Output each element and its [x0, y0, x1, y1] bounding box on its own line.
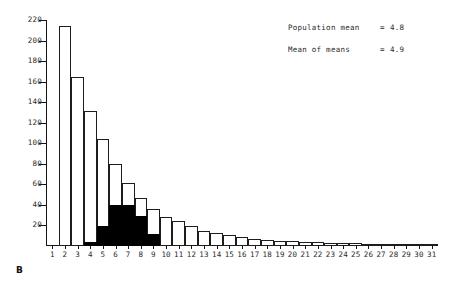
histogram-bar	[147, 234, 160, 246]
x-axis-tick-label: 14	[212, 251, 221, 259]
histogram-figure: 22020018016014012010080604020 1234567891…	[0, 0, 450, 288]
histogram-bar	[84, 242, 97, 246]
x-axis-tick-label: 29	[402, 251, 411, 259]
x-axis-tick-label: 26	[364, 251, 373, 259]
x-axis-tick-label: 10	[161, 251, 170, 259]
y-axis-tick-label: 200	[28, 37, 42, 45]
x-axis-tick-label: 3	[75, 251, 80, 259]
y-axis-tick-label: 40	[33, 201, 42, 209]
annotation-equals: =	[380, 46, 390, 54]
x-axis-tick-label: 16	[237, 251, 246, 259]
annotation-equals: =	[380, 24, 390, 32]
x-axis-tick-label: 8	[138, 251, 143, 259]
panel-letter: B	[16, 266, 23, 275]
x-axis-tick-label: 2	[63, 251, 68, 259]
x-axis-tick-label: 25	[351, 251, 360, 259]
x-axis-tick-label: 15	[225, 251, 234, 259]
x-axis-tick-label: 28	[389, 251, 398, 259]
x-axis-tick-label: 23	[326, 251, 335, 259]
x-axis-tick-label: 27	[376, 251, 385, 259]
x-axis-tick-label: 12	[187, 251, 196, 259]
annotation-row: Mean of means=4.9	[288, 46, 404, 54]
chart-annotations: Population mean=4.8Mean of means=4.9	[288, 24, 404, 67]
x-axis-tick-label: 17	[250, 251, 259, 259]
y-axis-tick-label: 220	[28, 16, 42, 24]
histogram-bar	[122, 205, 135, 246]
x-axis-tick-label: 24	[338, 251, 347, 259]
y-axis-tick-label: 160	[28, 78, 42, 86]
histogram-bar	[109, 205, 122, 246]
histogram-bar	[135, 216, 148, 246]
x-axis-tick-label: 30	[414, 251, 423, 259]
x-axis-tick-label: 22	[313, 251, 322, 259]
x-axis-tick-label: 31	[427, 251, 436, 259]
x-axis-tick-label: 4	[88, 251, 93, 259]
x-axis-tick-label: 13	[199, 251, 208, 259]
annotation-row: Population mean=4.8	[288, 24, 404, 32]
y-axis-tick-label: 140	[28, 98, 42, 106]
x-axis-tick-label: 1	[50, 251, 55, 259]
y-axis-tick-label: 80	[33, 160, 42, 168]
x-axis-tick-label: 7	[126, 251, 131, 259]
x-axis-tick-label: 18	[263, 251, 272, 259]
y-axis-tick-label: 180	[28, 57, 42, 65]
annotation-value: 4.8	[390, 24, 404, 32]
y-axis-tick-label: 120	[28, 119, 42, 127]
x-axis-tick-label: 20	[288, 251, 297, 259]
y-axis-tick-label: 20	[33, 222, 42, 230]
x-axis-tick-label: 19	[275, 251, 284, 259]
annotation-label: Population mean	[288, 24, 380, 32]
x-axis-tick-label: 21	[301, 251, 310, 259]
y-axis-tick-label: 100	[28, 140, 42, 148]
annotation-value: 4.9	[390, 46, 404, 54]
x-axis-tick-label: 9	[151, 251, 156, 259]
x-axis-tick-label: 11	[174, 251, 183, 259]
x-axis-tick-label: 6	[113, 251, 118, 259]
histogram-bar	[97, 226, 110, 246]
x-axis-tick-label: 5	[101, 251, 106, 259]
annotation-label: Mean of means	[288, 46, 380, 54]
y-axis-tick-label: 60	[33, 181, 42, 189]
